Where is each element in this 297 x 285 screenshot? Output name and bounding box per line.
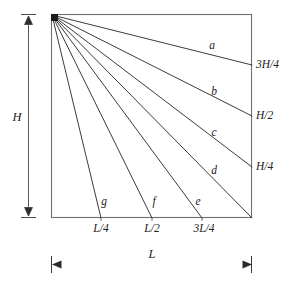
curve-label-b: b — [211, 86, 217, 98]
bottom-tick-label-3l4: 3L/4 — [193, 223, 214, 235]
arrowhead-down — [25, 208, 33, 217]
fan-origin-marker — [51, 14, 58, 21]
right-tick-label-h4: H/4 — [256, 161, 273, 173]
height-dimension-line — [21, 15, 36, 218]
bottom-tick-label-l4: L/4 — [93, 223, 108, 235]
width-dimension-label: L — [149, 248, 156, 261]
figure-drawing — [0, 0, 297, 285]
fan-line-g — [52, 15, 101, 218]
curve-label-c: c — [211, 127, 216, 139]
height-dimension-label: H — [12, 111, 21, 124]
figure-container: a b c d e f g 3H/4 H/2 H/4 L/4 L/2 3L/4 … — [0, 0, 297, 285]
fan-line-a — [52, 15, 252, 65]
right-tick-label-3h4: 3H/4 — [256, 59, 279, 71]
right-tick-label-h2: H/2 — [256, 110, 273, 122]
curve-label-e: e — [195, 196, 200, 208]
arrowhead-left — [52, 260, 62, 268]
curve-label-d: d — [211, 165, 217, 177]
curve-label-f: f — [152, 196, 155, 208]
curve-label-g: g — [101, 196, 107, 208]
fan-line-d — [52, 15, 252, 218]
curve-label-a: a — [209, 40, 215, 52]
fan-line-e — [52, 15, 202, 218]
arrowhead-right — [243, 260, 253, 268]
fan-line-c — [52, 15, 252, 167]
arrowhead-up — [25, 16, 33, 25]
bottom-tick-label-l2: L/2 — [144, 223, 159, 235]
fan-line-f — [52, 15, 152, 218]
fan-line-b — [52, 15, 252, 116]
fan-lines — [52, 15, 252, 218]
bottom-tick-marks — [101, 218, 202, 221]
